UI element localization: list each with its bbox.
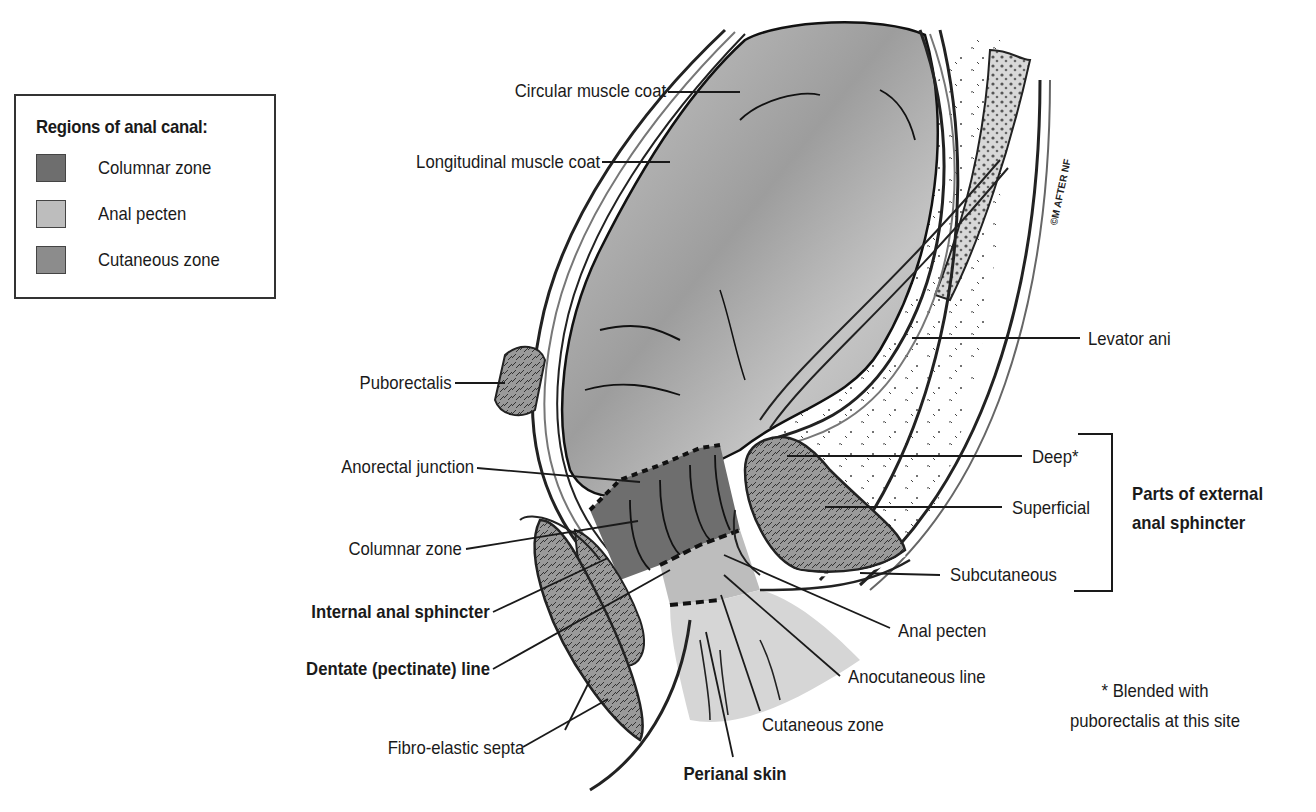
label-external-sphincter-group-1: Parts of external [1132, 483, 1263, 505]
label-external-sphincter-group-2: anal sphincter [1132, 512, 1245, 534]
label-columnar-zone: Columnar zone [349, 538, 462, 560]
label-levator-ani: Levator ani [1088, 328, 1171, 350]
anal-pecten-swatch [36, 200, 66, 228]
label-fibro-elastic-septa: Fibro-elastic septa [387, 737, 524, 759]
columnar-zone-swatch [36, 154, 66, 182]
legend-label: Cutaneous zone [98, 249, 220, 271]
legend-label: Anal pecten [98, 203, 186, 225]
footnote-line-1: * Blended with [1054, 680, 1256, 702]
legend-item-columnar-zone: Columnar zone [36, 152, 66, 184]
label-anorectal-junction: Anorectal junction [341, 456, 474, 478]
label-longitudinal-muscle-coat: Longitudinal muscle coat [416, 151, 600, 173]
cutaneous-zone-swatch [36, 246, 66, 274]
legend-box: Regions of anal canal: Columnar zone Ana… [14, 94, 276, 299]
legend-title: Regions of anal canal: [36, 116, 208, 138]
label-deep: Deep* [1032, 446, 1078, 468]
footnote-line-2: puborectalis at this site [1054, 710, 1256, 732]
legend-item-cutaneous-zone: Cutaneous zone [36, 244, 66, 276]
label-circular-muscle-coat: Circular muscle coat [515, 80, 666, 102]
label-subcutaneous: Subcutaneous [950, 564, 1057, 586]
label-anal-pecten: Anal pecten [898, 620, 986, 642]
label-puborectalis: Puborectalis [360, 372, 452, 394]
legend-item-anal-pecten: Anal pecten [36, 198, 66, 230]
label-anocutaneous-line: Anocutaneous line [848, 666, 986, 688]
label-internal-anal-sphincter: Internal anal sphincter [312, 601, 490, 623]
legend-label: Columnar zone [98, 157, 211, 179]
label-perianal-skin: Perianal skin [669, 763, 801, 785]
label-dentate-line: Dentate (pectinate) line [306, 658, 490, 680]
label-superficial: Superficial [1012, 497, 1090, 519]
label-cutaneous-zone: Cutaneous zone [762, 714, 884, 736]
